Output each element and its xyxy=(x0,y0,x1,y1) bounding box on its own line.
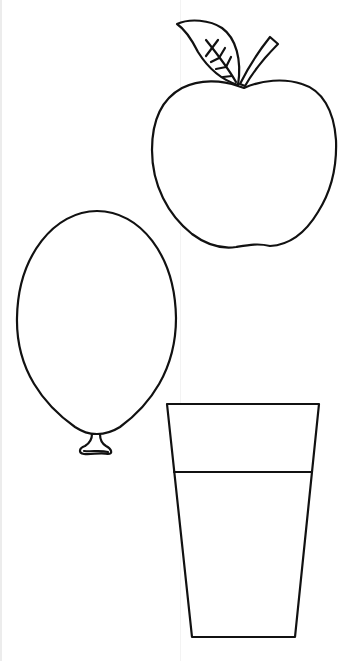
balloon-icon xyxy=(17,211,176,454)
glass-cup xyxy=(167,404,319,637)
drawing-canvas xyxy=(0,0,343,661)
balloon-body xyxy=(17,211,176,434)
glass-icon xyxy=(167,404,319,637)
apple-icon xyxy=(152,21,336,248)
apple-stem xyxy=(240,37,278,86)
apple-body xyxy=(152,81,336,248)
